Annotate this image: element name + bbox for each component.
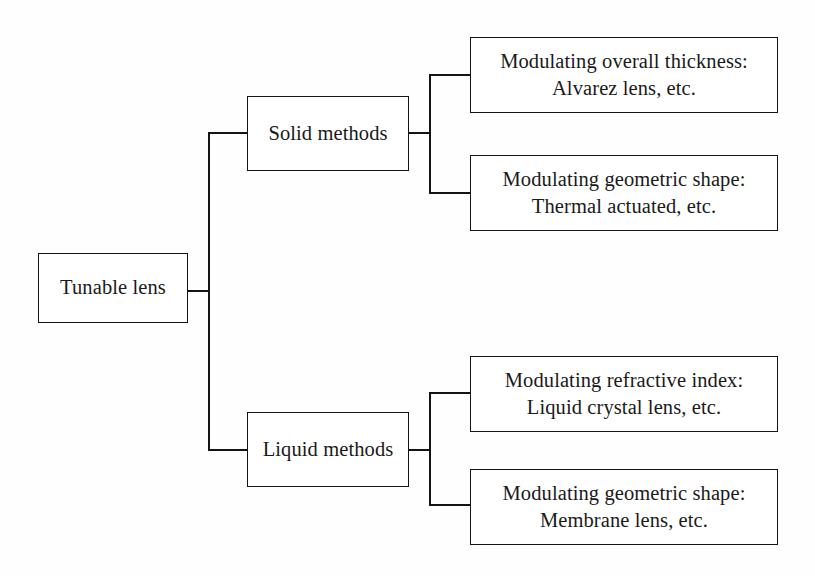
node-solid-child-1-line-1: Modulating overall thickness: (500, 50, 748, 72)
connector-trunk-to-liquid (208, 449, 249, 451)
node-solid-child-2-label: Modulating geometric shape: Thermal actu… (497, 166, 752, 220)
node-liquid-child-1-line-1: Modulating refractive index: (505, 369, 743, 391)
node-solid-methods-label: Solid methods (262, 120, 393, 147)
node-modulating-refractive-index[interactable]: Modulating refractive index: Liquid crys… (470, 356, 778, 432)
connector-solid-to-child-1 (429, 74, 471, 76)
connector-solid-bracket (429, 74, 431, 194)
node-modulating-geometric-shape-thermal[interactable]: Modulating geometric shape: Thermal actu… (470, 155, 778, 231)
node-solid-child-2-line-2: Thermal actuated, etc. (532, 195, 716, 217)
connector-trunk-to-solid (208, 132, 249, 134)
connector-main-trunk (208, 132, 210, 451)
node-solid-child-2-line-1: Modulating geometric shape: (503, 168, 746, 190)
node-solid-child-1-line-2: Alvarez lens, etc. (552, 77, 696, 99)
node-modulating-geometric-shape-membrane[interactable]: Modulating geometric shape: Membrane len… (470, 469, 778, 545)
connector-liquid-to-child-1 (429, 392, 471, 394)
node-solid-child-1-label: Modulating overall thickness: Alvarez le… (494, 48, 754, 102)
connector-root-stub (188, 290, 210, 292)
connector-liquid-bracket (429, 392, 431, 506)
node-liquid-child-1-line-2: Liquid crystal lens, etc. (527, 396, 721, 418)
node-modulating-overall-thickness[interactable]: Modulating overall thickness: Alvarez le… (470, 37, 778, 113)
node-liquid-methods[interactable]: Liquid methods (247, 412, 409, 487)
node-liquid-child-2-line-2: Membrane lens, etc. (540, 509, 708, 531)
node-liquid-methods-label: Liquid methods (257, 436, 400, 463)
connector-solid-stub (409, 132, 431, 134)
node-tunable-lens[interactable]: Tunable lens (38, 253, 188, 323)
node-liquid-child-1-label: Modulating refractive index: Liquid crys… (499, 367, 749, 421)
connector-solid-to-child-2 (429, 192, 471, 194)
connector-liquid-to-child-2 (429, 504, 471, 506)
node-solid-methods[interactable]: Solid methods (247, 96, 409, 171)
connector-liquid-stub (409, 449, 431, 451)
node-tunable-lens-label: Tunable lens (54, 274, 172, 301)
diagram-canvas: Tunable lens Solid methods Liquid method… (0, 0, 815, 576)
node-liquid-child-2-label: Modulating geometric shape: Membrane len… (497, 480, 752, 534)
node-liquid-child-2-line-1: Modulating geometric shape: (503, 482, 746, 504)
